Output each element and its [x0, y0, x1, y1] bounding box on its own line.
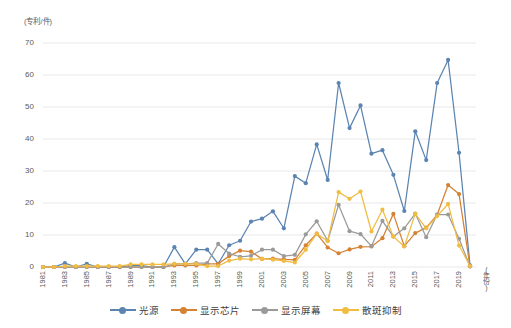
data-point	[380, 219, 384, 223]
data-point	[238, 257, 242, 261]
data-point	[315, 232, 319, 236]
data-point	[315, 142, 319, 146]
data-point	[227, 251, 231, 255]
legend-label: 显示芯片	[200, 303, 240, 317]
data-point	[413, 212, 417, 216]
data-point	[107, 264, 111, 268]
data-point	[337, 251, 341, 255]
data-point	[358, 232, 362, 236]
data-point	[435, 214, 439, 218]
data-point	[216, 264, 220, 268]
series-line-1	[43, 60, 470, 267]
data-point	[161, 262, 165, 266]
data-point	[227, 243, 231, 247]
legend-item[interactable]: 显示屏幕	[252, 303, 321, 317]
line-marker-icon	[171, 306, 197, 315]
data-point	[260, 257, 264, 261]
data-point	[468, 264, 472, 268]
data-point	[337, 190, 341, 194]
data-point	[63, 264, 67, 268]
data-point	[326, 245, 330, 249]
data-point	[457, 243, 461, 247]
chart-legend: 光源显示芯片显示屏幕散斑抑制	[0, 303, 511, 317]
data-point	[249, 219, 253, 223]
data-point	[238, 239, 242, 243]
legend-item[interactable]: 光源	[110, 303, 159, 317]
data-point	[402, 226, 406, 230]
data-point	[139, 262, 143, 266]
data-point	[85, 264, 89, 268]
data-point	[337, 81, 341, 85]
data-point	[172, 245, 176, 249]
data-point	[391, 235, 395, 239]
data-point	[413, 129, 417, 133]
data-point	[326, 178, 330, 182]
data-point	[402, 244, 406, 248]
data-point	[358, 245, 362, 249]
data-point	[391, 173, 395, 177]
data-point	[347, 197, 351, 201]
data-point	[402, 209, 406, 213]
data-point	[315, 219, 319, 223]
data-point	[293, 174, 297, 178]
data-point	[118, 264, 122, 268]
data-point	[369, 244, 373, 248]
line-marker-icon	[110, 306, 136, 315]
data-point	[227, 259, 231, 263]
plot-area	[0, 0, 511, 328]
data-point	[446, 183, 450, 187]
data-point	[216, 242, 220, 246]
data-point	[282, 259, 286, 263]
data-point	[271, 209, 275, 213]
data-point	[194, 262, 198, 266]
data-point	[128, 262, 132, 266]
legend-label: 散斑抑制	[362, 303, 402, 317]
line-marker-icon	[252, 306, 278, 315]
data-point	[347, 229, 351, 233]
data-point	[293, 260, 297, 264]
data-point	[271, 248, 275, 252]
data-point	[358, 189, 362, 193]
data-point	[238, 249, 242, 253]
data-point	[271, 258, 275, 262]
data-point	[424, 226, 428, 230]
data-point	[282, 254, 286, 258]
data-point	[194, 248, 198, 252]
data-point	[41, 265, 45, 269]
data-point	[446, 58, 450, 62]
data-point	[304, 181, 308, 185]
data-point	[326, 239, 330, 243]
legend-label: 显示屏幕	[281, 303, 321, 317]
data-point	[413, 231, 417, 235]
data-point	[380, 148, 384, 152]
data-point	[205, 264, 209, 268]
data-point	[260, 248, 264, 252]
legend-item[interactable]: 散斑抑制	[333, 303, 402, 317]
data-point	[96, 264, 100, 268]
data-point	[249, 250, 253, 254]
data-point	[380, 208, 384, 212]
data-point	[205, 248, 209, 252]
data-point	[457, 151, 461, 155]
data-point	[446, 212, 450, 216]
data-point	[446, 202, 450, 206]
data-point	[391, 212, 395, 216]
data-point	[183, 262, 187, 266]
data-point	[347, 247, 351, 251]
line-marker-icon	[333, 306, 359, 315]
data-point	[380, 236, 384, 240]
data-point	[260, 217, 264, 221]
data-point	[424, 158, 428, 162]
line-chart: (专利/件) (年份) 010203040506070 198119831985…	[0, 0, 511, 328]
data-point	[347, 126, 351, 130]
data-point	[337, 203, 341, 207]
legend-item[interactable]: 显示芯片	[171, 303, 240, 317]
data-point	[358, 103, 362, 107]
data-point	[369, 152, 373, 156]
data-point	[74, 264, 78, 268]
data-point	[282, 226, 286, 230]
data-point	[457, 192, 461, 196]
data-point	[424, 235, 428, 239]
data-point	[172, 262, 176, 266]
data-point	[435, 81, 439, 85]
